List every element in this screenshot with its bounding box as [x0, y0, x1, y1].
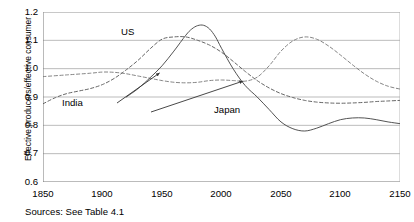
y-tick-label: 0.6 — [12, 176, 38, 187]
x-tick-label: 2000 — [201, 188, 241, 199]
series-label-us: US — [121, 26, 134, 37]
series-label-japan: Japan — [214, 104, 240, 115]
gridlines — [43, 12, 400, 154]
x-tick-label: 1900 — [82, 188, 122, 199]
chart-figure: Effective producers/effective consumer 1… — [0, 0, 414, 222]
plot-area — [43, 12, 400, 182]
x-tick-label: 1950 — [142, 188, 182, 199]
source-note: Sources: See Table 4.1 — [25, 206, 124, 217]
plot-svg — [43, 12, 400, 182]
x-tick-label: 1850 — [23, 188, 63, 199]
y-tick-label: 1.2 — [12, 6, 38, 17]
series-line-india — [43, 37, 400, 89]
annotation-leader — [117, 73, 160, 103]
y-tick-label: 0.8 — [12, 119, 38, 130]
y-tick-label: 0.7 — [12, 147, 38, 158]
y-tick-label: 0.9 — [12, 91, 38, 102]
series-label-india: India — [62, 97, 83, 108]
x-tick-label: 2150 — [380, 188, 414, 199]
x-tick-label: 2100 — [320, 188, 360, 199]
x-tick-label: 2050 — [261, 188, 301, 199]
series-lines — [43, 25, 400, 131]
y-tick-label: 1.0 — [12, 62, 38, 73]
series-line-japan — [126, 25, 400, 131]
series-line-us — [43, 37, 400, 104]
y-tick-label: 1.1 — [12, 34, 38, 45]
